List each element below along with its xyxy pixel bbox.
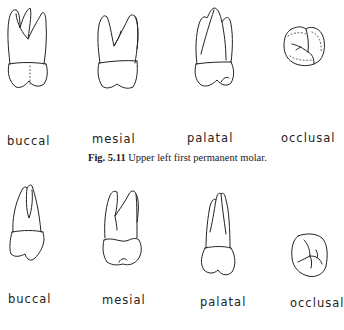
tooth-drawing-palatal (193, 6, 239, 88)
view-label-buccal: buccal (8, 292, 51, 306)
figure-number: Fig. 5.11 (88, 152, 126, 163)
tooth-drawing-mesial (95, 11, 143, 91)
view-label-palatal: palatal (200, 295, 246, 309)
view-label-occlusal: occlusal (290, 296, 344, 310)
view-label-mesial: mesial (102, 293, 146, 307)
view-label-palatal: palatal (187, 131, 233, 145)
tooth-drawing-mesial (99, 186, 147, 274)
figure-caption: Fig. 5.11 Upper left first permanent mol… (88, 152, 267, 163)
tooth-drawing-buccal (6, 6, 50, 90)
tooth-drawing-palatal (198, 188, 240, 284)
view-label-occlusal: occlusal (281, 131, 335, 145)
tooth-drawing-occlusal (290, 232, 330, 278)
view-label-mesial: mesial (92, 132, 136, 146)
view-label-buccal: buccal (7, 134, 50, 148)
tooth-drawing-occlusal (282, 24, 326, 68)
tooth-drawing-buccal (7, 182, 49, 272)
figure-caption-text: Upper left first permanent molar. (128, 152, 267, 163)
